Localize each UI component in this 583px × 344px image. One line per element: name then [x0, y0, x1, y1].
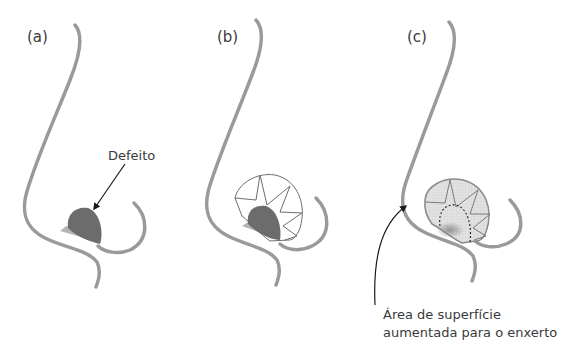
- nose-profile-b: [207, 20, 280, 285]
- defect-arrow: [94, 164, 125, 209]
- graft-area-arrow: [375, 206, 406, 305]
- panel-c: (c) Área de superfície aumentada para o …: [375, 22, 558, 340]
- defect-label: Defeito: [108, 148, 155, 163]
- defect-b: [248, 206, 281, 240]
- graft-area-label-line2: aumentada para o enxerto: [383, 325, 557, 340]
- nose-profile-a: [24, 25, 99, 287]
- graft-area-label-line1: Área de superfície: [383, 307, 501, 322]
- panel-a: (a) Defeito: [24, 25, 155, 287]
- panel-b: (b): [207, 20, 327, 285]
- panel-b-label: (b): [217, 28, 238, 46]
- panel-a-label: (a): [27, 28, 48, 46]
- defect-a: [68, 208, 102, 244]
- alar-rim-a: [98, 203, 145, 253]
- nasal-defect-diagram: (a) Defeito (b) (c) Área de superfície a…: [0, 0, 583, 344]
- panel-c-label: (c): [407, 28, 427, 46]
